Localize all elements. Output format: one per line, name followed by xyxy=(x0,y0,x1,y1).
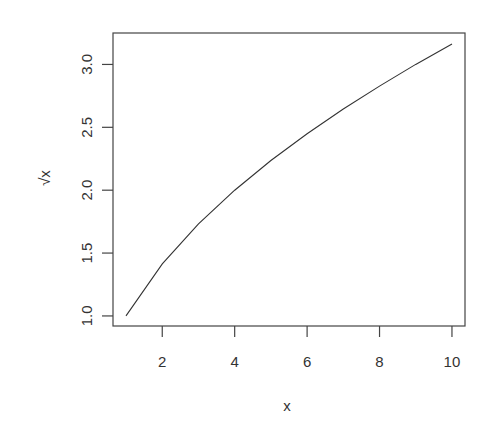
sqrt-line-chart: 246810 1.01.52.02.53.0 x √x xyxy=(0,0,491,436)
y-tick-label: 1.5 xyxy=(78,243,95,264)
plot-box xyxy=(113,33,465,326)
y-tick-label: 2.5 xyxy=(78,117,95,138)
y-tick-label: 2.0 xyxy=(78,180,95,201)
x-tick-label: 2 xyxy=(158,353,166,370)
y-axis-label: √x xyxy=(36,170,53,186)
x-tick-label: 8 xyxy=(375,353,383,370)
x-axis-ticks: 246810 xyxy=(158,326,460,370)
x-axis-label: x xyxy=(283,397,291,414)
x-tick-label: 4 xyxy=(231,353,239,370)
y-tick-label: 1.0 xyxy=(78,305,95,326)
y-tick-label: 3.0 xyxy=(78,54,95,75)
x-tick-label: 6 xyxy=(303,353,311,370)
x-tick-label: 10 xyxy=(444,353,461,370)
y-axis-ticks: 1.01.52.02.53.0 xyxy=(78,54,113,326)
data-line xyxy=(126,44,452,316)
